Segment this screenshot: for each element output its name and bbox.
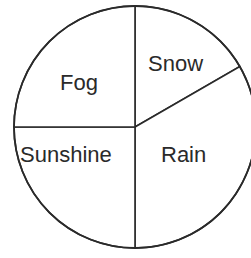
label-sunshine: Sunshine: [20, 142, 112, 167]
label-fog: Fog: [60, 70, 98, 95]
label-snow: Snow: [148, 51, 203, 76]
label-rain: Rain: [161, 142, 206, 167]
pie-slice-fog: [14, 6, 135, 127]
pie-chart: Snow Fog Sunshine Rain: [0, 0, 251, 258]
